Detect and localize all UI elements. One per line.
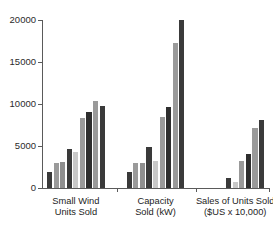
bar	[233, 182, 238, 188]
bar	[100, 106, 105, 188]
x-axis-group-separator-tick	[117, 188, 118, 192]
bars-layer	[43, 20, 270, 188]
bar	[160, 117, 165, 188]
y-axis-tick	[38, 188, 43, 189]
bar	[67, 149, 72, 188]
bar	[252, 128, 257, 188]
bar	[226, 178, 231, 189]
x-axis-group-label-line: ($US x 10,000)	[175, 207, 273, 218]
bar	[133, 163, 138, 188]
y-axis-tick-label: 0	[0, 183, 36, 193]
x-axis-end-tick	[269, 188, 270, 192]
y-axis-tick-label: 5000	[0, 141, 36, 151]
bar	[173, 43, 178, 188]
bar	[54, 163, 59, 188]
page-watermark	[150, 1, 270, 8]
bar	[73, 152, 78, 188]
bar	[246, 154, 251, 188]
bar	[153, 161, 158, 188]
x-axis-group-separator-tick	[196, 188, 197, 192]
bar	[60, 162, 65, 188]
y-axis-tick-label: 15000	[0, 57, 36, 67]
y-axis-tick-label: 20000	[0, 15, 36, 25]
x-axis-group-label-line: Sales of Units Sold	[175, 196, 273, 207]
bar	[146, 147, 151, 188]
y-axis-tick-label: 10000	[0, 99, 36, 109]
bar	[140, 163, 145, 188]
x-axis-group-label: Sales of Units Sold($US x 10,000)	[175, 196, 273, 217]
bar	[47, 172, 52, 188]
bar	[93, 101, 98, 188]
bar	[86, 112, 91, 188]
bar	[127, 172, 132, 188]
bar	[259, 120, 264, 188]
bar	[166, 107, 171, 188]
x-axis-line	[42, 188, 270, 189]
bar	[179, 20, 184, 188]
bar	[239, 161, 244, 188]
bar	[80, 118, 85, 188]
bar-chart: 05000100001500020000 Small WindUnits Sol…	[0, 0, 273, 232]
